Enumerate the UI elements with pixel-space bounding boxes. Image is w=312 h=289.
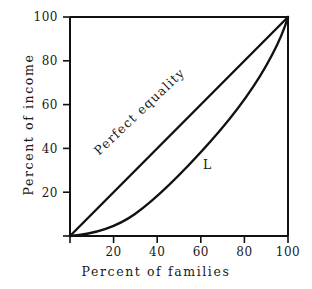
x-tick-label-100: 100 [268,245,308,259]
perfect-equality-line [70,17,288,236]
lorenz-curve-label: L [203,157,212,172]
y-tick-label-100: 100 [14,10,58,24]
x-axis-ticks [70,236,288,243]
x-tick-label-20: 20 [94,245,134,259]
y-axis-title: Percent of income [21,35,36,215]
x-tick-label-60: 60 [181,245,221,259]
y-axis-ticks [63,17,70,236]
x-tick-label-80: 80 [224,245,264,259]
x-axis-title: Percent of families [0,264,312,279]
x-tick-label-40: 40 [137,245,177,259]
lorenz-curve-figure: 100 80 60 40 20 20 40 60 80 100 Percent … [0,0,312,289]
